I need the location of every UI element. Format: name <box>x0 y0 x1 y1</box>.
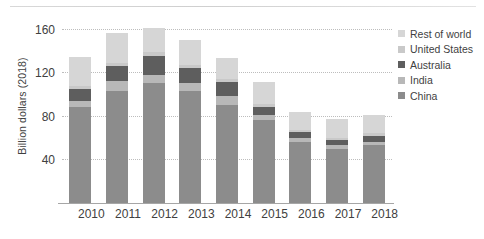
bar-segment-australia[interactable] <box>69 89 91 101</box>
legend-label-china: China <box>410 91 437 102</box>
bar-segment-china[interactable] <box>363 145 385 203</box>
bar-segment-australia[interactable] <box>216 82 238 96</box>
bar-segment-china[interactable] <box>326 149 348 203</box>
bar-stack[interactable] <box>216 58 238 203</box>
chart-legend: Rest of worldUnited StatesAustraliaIndia… <box>398 26 484 104</box>
y-axis-tick-label: 80 <box>42 110 55 124</box>
bar-segment-china[interactable] <box>253 120 275 203</box>
y-axis-tick-label: 40 <box>42 153 55 167</box>
bar-segment-india[interactable] <box>216 96 238 105</box>
bar-stack[interactable] <box>69 57 91 203</box>
bar-segment-china[interactable] <box>216 105 238 203</box>
bar-segment-rest-of-world[interactable] <box>216 58 238 79</box>
legend-item-india[interactable]: India <box>398 73 484 89</box>
bar-stack[interactable] <box>143 28 165 203</box>
bars-layer <box>62 18 392 203</box>
bar-segment-china[interactable] <box>69 107 91 203</box>
bar-stack[interactable] <box>326 119 348 203</box>
legend-item-australia[interactable]: Australia <box>398 57 484 73</box>
legend-item-united-states[interactable]: United States <box>398 42 484 58</box>
legend-swatch-china <box>398 92 405 99</box>
bar-segment-india[interactable] <box>179 83 201 91</box>
bar-segment-china[interactable] <box>143 83 165 203</box>
bar-segment-rest-of-world[interactable] <box>289 112 311 131</box>
bar-segment-rest-of-world[interactable] <box>179 40 201 65</box>
bar-segment-rest-of-world[interactable] <box>69 57 91 85</box>
plot-area: 4080120160 20102011201220132014201520162… <box>62 18 392 203</box>
y-axis-title: Billion dollars (2018) <box>16 21 28 191</box>
chart-figure: Billion dollars (2018) 4080120160 201020… <box>0 0 484 239</box>
bar-stack[interactable] <box>363 115 385 203</box>
bar-segment-china[interactable] <box>179 91 201 203</box>
legend-swatch-india <box>398 77 405 84</box>
bar-segment-china[interactable] <box>289 142 311 203</box>
y-axis-tick-label: 120 <box>35 66 55 80</box>
bar-stack[interactable] <box>106 33 128 203</box>
legend-item-rest-of-world[interactable]: Rest of world <box>398 26 484 42</box>
bar-stack[interactable] <box>289 112 311 203</box>
bar-segment-india[interactable] <box>143 75 165 84</box>
legend-swatch-australia <box>398 61 405 68</box>
bar-stack[interactable] <box>179 40 201 203</box>
y-axis-tick-label: 160 <box>35 23 55 37</box>
legend-label-australia: Australia <box>410 60 451 71</box>
legend-item-china[interactable]: China <box>398 88 484 104</box>
bar-segment-australia[interactable] <box>179 68 201 83</box>
bar-segment-rest-of-world[interactable] <box>253 82 275 104</box>
bar-segment-china[interactable] <box>106 91 128 203</box>
bar-segment-australia[interactable] <box>106 66 128 81</box>
bar-segment-australia[interactable] <box>143 56 165 75</box>
bar-stack[interactable] <box>253 82 275 203</box>
bar-segment-rest-of-world[interactable] <box>363 115 385 134</box>
x-axis-tick-label: 2018 <box>362 207 408 221</box>
bar-segment-india[interactable] <box>106 81 128 91</box>
legend-label-rest-of-world: Rest of world <box>410 29 471 40</box>
bar-segment-rest-of-world[interactable] <box>326 119 348 138</box>
legend-swatch-united-states <box>398 46 405 53</box>
bar-segment-rest-of-world[interactable] <box>106 33 128 62</box>
bar-segment-australia[interactable] <box>253 107 275 115</box>
legend-label-united-states: United States <box>410 44 473 55</box>
top-divider <box>10 6 476 7</box>
legend-label-india: India <box>410 75 433 86</box>
x-axis-line <box>58 203 394 204</box>
bar-segment-rest-of-world[interactable] <box>143 28 165 52</box>
legend-swatch-rest-of-world <box>398 30 405 37</box>
